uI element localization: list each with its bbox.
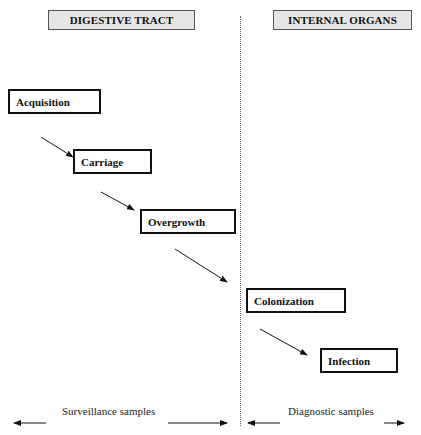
diagnostic-samples-caption: Diagnostic samples [288, 405, 374, 417]
flow-arrows [0, 0, 421, 435]
arrow-icon [41, 137, 307, 355]
surveillance-samples-caption: Surveillance samples [62, 405, 155, 417]
